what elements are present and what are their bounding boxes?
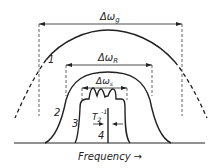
diagram-canvas: Δωg 1 ΔωR 2 Δωs 3 T2-1 4 Frequency→ bbox=[0, 0, 218, 168]
arrowhead bbox=[176, 22, 182, 26]
arrowhead bbox=[39, 22, 45, 26]
curve-1-tail-left bbox=[15, 60, 46, 118]
spectral-linewidth-diagram: Δωg 1 ΔωR 2 Δωs 3 T2-1 4 Frequency→ bbox=[0, 0, 218, 168]
curve-1-tail-right bbox=[175, 62, 207, 118]
delta-r-label: ΔωR bbox=[97, 52, 118, 65]
arrowhead bbox=[112, 122, 117, 126]
curve-2-label: 2 bbox=[54, 107, 60, 118]
delta-s-label: Δωs bbox=[95, 76, 113, 87]
curve-3-label: 3 bbox=[72, 118, 78, 129]
t2-inverse-label: T2-1 bbox=[92, 108, 107, 123]
arrowhead bbox=[82, 86, 88, 90]
curve-4-label: 4 bbox=[98, 130, 104, 141]
arrowhead bbox=[146, 63, 152, 67]
frequency-axis-label: Frequency→ bbox=[78, 151, 142, 162]
delta-g-label: Δωg bbox=[99, 11, 120, 24]
curve-1-label: 1 bbox=[48, 54, 54, 65]
arrowhead bbox=[121, 86, 127, 90]
arrowhead bbox=[66, 63, 72, 67]
